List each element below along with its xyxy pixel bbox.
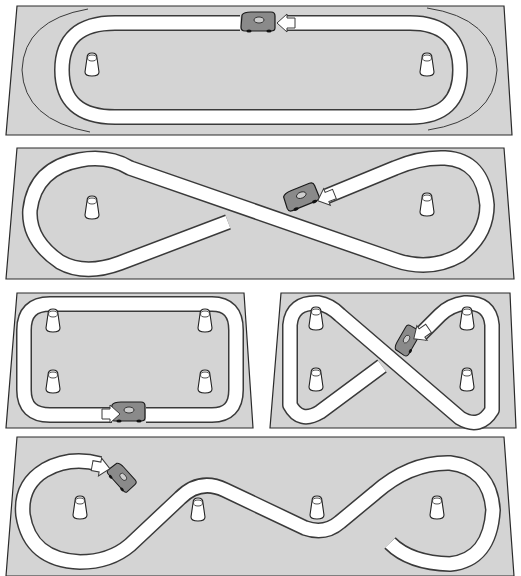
layout-figure-eight-long: [6, 148, 514, 279]
pylon: [420, 53, 434, 76]
layout-oval: [6, 6, 512, 135]
pylon: [420, 193, 434, 216]
pylon: [46, 309, 60, 332]
pylon: [309, 368, 323, 391]
pylon: [310, 496, 324, 519]
track-layouts-figure: Toy car track layouts: [0, 0, 521, 576]
pylon: [460, 307, 474, 330]
pylon: [309, 307, 323, 330]
pylon: [85, 53, 99, 76]
pylon: [191, 498, 205, 521]
pylon: [198, 309, 212, 332]
pylon: [460, 368, 474, 391]
pylon: [430, 496, 444, 519]
layout-rounded-rectangle: [6, 293, 253, 428]
layout-slalom: [6, 437, 514, 576]
race-car-icon: [241, 12, 275, 33]
layout-figure-eight-compact: [270, 293, 516, 428]
pylon: [85, 196, 99, 219]
pylon: [198, 370, 212, 393]
pylon: [73, 496, 87, 519]
pylon: [46, 370, 60, 393]
